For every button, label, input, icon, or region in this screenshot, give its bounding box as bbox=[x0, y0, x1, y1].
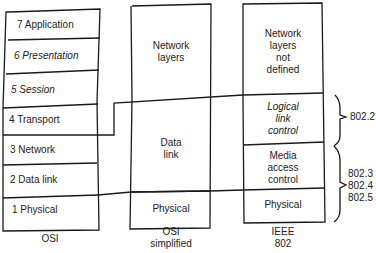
osi-layer-5: 5 Session bbox=[11, 84, 55, 96]
caption-line: simplified bbox=[131, 238, 211, 250]
label-line: defined bbox=[243, 64, 323, 76]
osi-simplified-network-layers: Network layers bbox=[131, 40, 211, 64]
osi-layer-2: 2 Data link bbox=[10, 174, 57, 186]
label-line: access bbox=[243, 162, 323, 174]
label-line: control bbox=[243, 174, 323, 186]
label-line: Network bbox=[131, 40, 211, 52]
osi-simplified-caption: OSI simplified bbox=[131, 226, 211, 250]
label-line: control bbox=[243, 125, 323, 137]
label-line: Network bbox=[243, 28, 323, 40]
label-line: layers bbox=[131, 52, 211, 64]
osi-simplified-data-link: Data link bbox=[131, 137, 211, 161]
label-line: Data bbox=[131, 137, 211, 149]
osi-simplified-physical: Physical bbox=[131, 203, 211, 215]
caption-line: 802 bbox=[263, 238, 303, 250]
osi-caption: OSI bbox=[30, 233, 70, 245]
label-line: not bbox=[243, 52, 323, 64]
brace-802-345 bbox=[334, 146, 346, 222]
standard-802-5: 802.5 bbox=[348, 192, 373, 204]
caption-line: OSI bbox=[131, 226, 211, 238]
network-boundary-connector bbox=[97, 95, 243, 135]
osi-layer-6: 6 Presentation bbox=[14, 50, 79, 62]
standard-802-2: 802.2 bbox=[350, 111, 375, 123]
ieee-physical: Physical bbox=[243, 199, 323, 211]
standard-802-3: 802.3 bbox=[348, 168, 373, 180]
ieee-network-layers-not-defined: Network layers not defined bbox=[243, 28, 323, 76]
osi-layer-7: 7 Application bbox=[17, 19, 74, 31]
brace-802-2 bbox=[334, 95, 346, 146]
caption-line: IEEE bbox=[263, 226, 303, 238]
osi-simplified-outline bbox=[130, 4, 211, 229]
osi-layer-3: 3 Network bbox=[10, 144, 55, 156]
label-line: link bbox=[243, 113, 323, 125]
ieee-logical-link-control: Logical link control bbox=[243, 101, 323, 137]
osi-layer-1: 1 Physical bbox=[12, 204, 58, 216]
label-line: link bbox=[131, 149, 211, 161]
ieee-media-access-control: Media access control bbox=[243, 150, 323, 186]
osi-layer-4: 4 Transport bbox=[9, 114, 60, 126]
standard-802-4: 802.4 bbox=[348, 180, 373, 192]
physical-boundary-connector bbox=[98, 190, 243, 195]
label-line: layers bbox=[243, 40, 323, 52]
ieee-caption: IEEE 802 bbox=[263, 226, 303, 250]
label-line: Media bbox=[243, 150, 323, 162]
label-line: Logical bbox=[243, 101, 323, 113]
